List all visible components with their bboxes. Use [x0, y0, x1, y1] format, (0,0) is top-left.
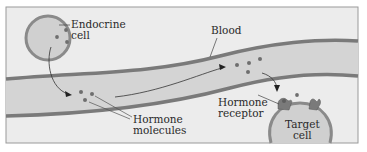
target-cell-label: Target cell	[285, 119, 320, 141]
hormone-molecules-label-line2: molecules	[133, 125, 186, 136]
hormone-dot	[65, 40, 69, 44]
endocrine-cell	[26, 16, 70, 60]
hormone-dot	[64, 28, 68, 32]
endocrine-cell-label: Endocrine cell	[71, 19, 126, 41]
endocrine-signaling-diagram: Endocrine cell Blood Hormone molecules H…	[0, 0, 367, 152]
hormone-dot	[235, 63, 239, 67]
hormone-dot	[55, 35, 59, 39]
blood-label: Blood	[211, 25, 241, 36]
endocrine-cell-label-line2: cell	[71, 30, 126, 41]
hormone-receptor-label: Hormone receptor	[218, 97, 268, 119]
hormone-dot	[258, 57, 262, 61]
hormone-dot	[247, 61, 251, 65]
hormone-dot	[90, 92, 94, 96]
hormone-dot	[79, 90, 83, 94]
bound-hormone-dot	[282, 99, 286, 103]
hormone-dot	[246, 70, 250, 74]
hormone-molecules-label: Hormone molecules	[133, 114, 186, 136]
hormone-dot	[83, 98, 87, 102]
target-cell-label-line2: cell	[285, 130, 320, 141]
hormone-receptor-label-line2: receptor	[218, 108, 268, 119]
hormone-dot	[295, 93, 299, 97]
